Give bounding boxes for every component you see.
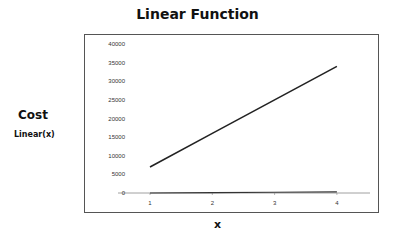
plot-area: 0500010000150002000025000300003500040000… [0,0,395,234]
x-tick-label: 1 [148,200,152,206]
x-tick-label: 3 [273,200,277,206]
y-tick-label: 10000 [108,153,125,159]
y-tick-label: 20000 [108,116,125,122]
series-line [150,66,337,167]
x-tick-label: 2 [211,200,215,206]
y-tick-label: 25000 [108,97,125,103]
y-tick-label: 15000 [108,134,125,140]
y-tick-label: 5000 [112,171,126,177]
y-tick-label: 30000 [108,78,125,84]
x-tick-label: 4 [335,200,339,206]
y-tick-label: 35000 [108,60,125,66]
y-tick-label: 40000 [108,41,125,47]
